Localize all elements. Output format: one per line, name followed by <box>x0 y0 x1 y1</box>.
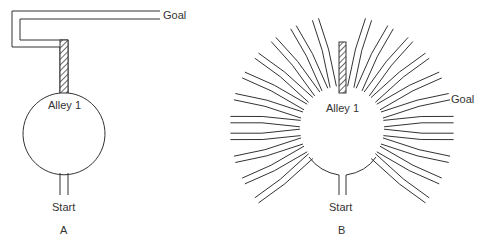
maze-b-arm-wall <box>245 152 307 184</box>
maze-b-start-label: Start <box>329 202 352 213</box>
maze-b-arm-wall <box>259 159 313 203</box>
maze-b-arena-bottom-left <box>309 157 339 175</box>
maze-a-start-label: Start <box>52 202 75 213</box>
maze-b-arm-wall <box>242 146 304 178</box>
maze-b-arm-wall <box>380 146 442 178</box>
maze-b-arm-wall <box>354 20 372 87</box>
maze-b-arm-wall <box>230 116 300 120</box>
maze-b-panel-label: B <box>338 225 345 236</box>
maze-b-arm-wall <box>384 123 454 127</box>
maze-a-inner-path <box>20 19 160 93</box>
maze-a-panel-label: A <box>60 225 67 236</box>
maze-b-arm-wall <box>230 123 300 127</box>
maze-b-arm-wall <box>371 159 425 203</box>
maze-b-arm-wall <box>230 136 300 140</box>
maze-b-arm-wall <box>383 116 453 120</box>
maze-b-goal-label: Goal <box>451 94 474 105</box>
maze-b-arm-wall <box>259 53 313 97</box>
maze-b-alley-1-label: Alley 1 <box>326 103 359 114</box>
maze-b-arm-wall <box>356 26 388 89</box>
maze-a-alley-1-hatched <box>60 40 68 93</box>
maze-b-arm-wall <box>296 26 328 89</box>
maze-b-arm-wall <box>312 20 330 87</box>
maze-b-arm-wall <box>380 78 442 110</box>
maze-b-arm-wall <box>230 129 300 133</box>
maze-b-arena-bottom-right <box>346 157 376 175</box>
maze-a-outer-path <box>12 11 160 93</box>
maze-a <box>12 11 160 195</box>
maze-b-arm-wall <box>371 53 425 97</box>
maze-a-alley-1-label: Alley 1 <box>48 100 81 111</box>
maze-b-arm-wall <box>383 136 453 140</box>
maze-b-arm-wall <box>377 72 439 104</box>
maze-b-arm-wall <box>384 129 454 133</box>
maze-b-arm-wall <box>242 78 304 110</box>
maze-a-goal-label: Goal <box>163 10 186 21</box>
maze-b-alley-1-hatched <box>339 42 346 93</box>
maze-b-arm-wall <box>245 72 307 104</box>
maze-b-arm-wall <box>377 152 439 184</box>
